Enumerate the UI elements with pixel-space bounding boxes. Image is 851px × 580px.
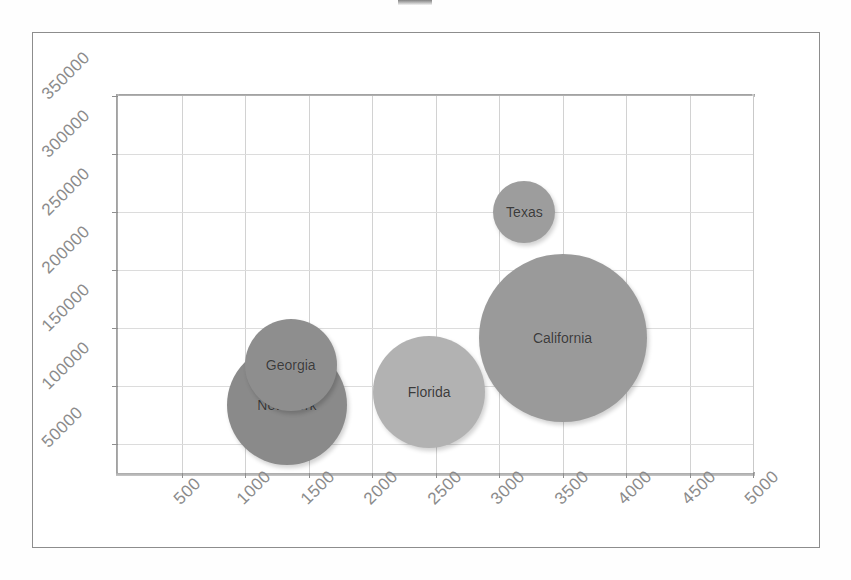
gridline-horizontal (118, 212, 753, 213)
gridline-horizontal (118, 154, 753, 155)
y-axis-tick (112, 386, 118, 387)
x-axis-tick (499, 473, 500, 478)
x-axis-tick (753, 473, 754, 478)
x-axis-tick (690, 473, 691, 478)
chart-stage: CaliforniaNew YorkFloridaGeorgiaTexas 50… (0, 0, 851, 580)
gridline-horizontal (118, 270, 753, 271)
y-axis-tick (112, 96, 118, 97)
y-axis-tick (112, 444, 118, 445)
y-axis-tick (112, 154, 118, 155)
bubble-texas[interactable]: Texas (493, 181, 555, 243)
x-axis-tick (372, 473, 373, 478)
x-axis-tick (182, 473, 183, 478)
y-axis-tick (112, 212, 118, 213)
chart-title-fragment (398, 0, 432, 5)
y-axis-tick (112, 270, 118, 271)
gridline-vertical (372, 96, 373, 473)
bubble-california[interactable]: California (479, 254, 647, 422)
x-axis-tick (245, 473, 246, 478)
bubble-label: Florida (408, 384, 451, 400)
plot-area: CaliforniaNew YorkFloridaGeorgiaTexas (118, 96, 753, 473)
bubble-label: Georgia (266, 357, 316, 373)
bubble-label: Texas (506, 204, 543, 220)
bubble-florida[interactable]: Florida (373, 336, 485, 448)
x-axis-tick (626, 473, 627, 478)
gridline-vertical (690, 96, 691, 473)
x-axis-tick (436, 473, 437, 478)
gridline-horizontal (118, 328, 753, 329)
x-axis-tick (309, 473, 310, 478)
gridline-vertical (182, 96, 183, 473)
bubble-georgia[interactable]: Georgia (245, 319, 337, 411)
x-axis-tick (563, 473, 564, 478)
bubble-label: California (533, 330, 592, 346)
y-axis-tick (112, 328, 118, 329)
